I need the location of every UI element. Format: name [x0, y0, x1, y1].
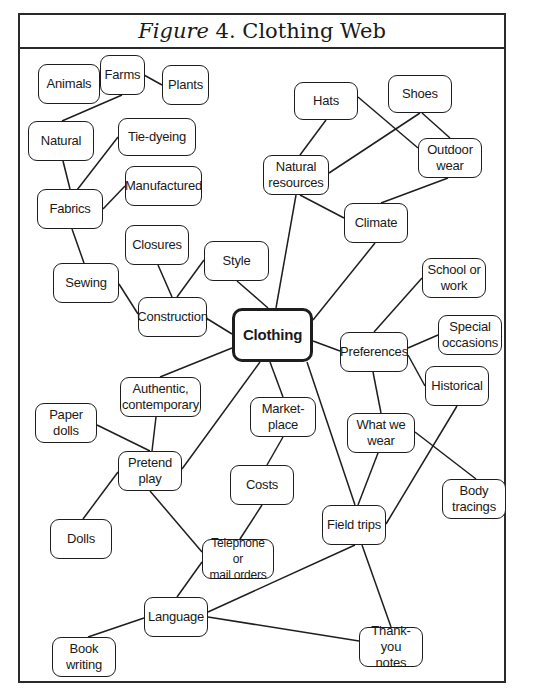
edge-language-bookwriting [88, 618, 144, 637]
edge-marketplace-costs [267, 437, 283, 465]
edge-pretendplay-dolls [83, 472, 118, 519]
node-pretend-play: Pretend play [118, 451, 182, 491]
node-special-occasions: Special occasions [438, 315, 502, 355]
edge-preferences-specialoccasions [408, 335, 438, 348]
edge-preferences-schoolorwork [374, 278, 422, 332]
node-paper-dolls: Paper dolls [35, 403, 97, 443]
node-clothing-center: Clothing [232, 308, 313, 362]
edge-fabrics-manufactured [103, 186, 125, 209]
edge-sewing-construction [119, 284, 138, 314]
node-authentic-contemporary: Authentic, contemporary [120, 377, 201, 417]
node-costs: Costs [230, 465, 294, 505]
edge-whatwewear-bodytracings [415, 432, 476, 479]
edge-authentic-pretendplay [152, 417, 156, 451]
edge-naturalresources-climate [300, 195, 344, 218]
node-natural: Natural [28, 121, 94, 161]
edge-preferences-historical [408, 355, 425, 386]
node-hats: Hats [294, 82, 358, 120]
node-tie-dyeing: Tie-dyeing [118, 118, 196, 156]
node-school-or-work: School or work [422, 258, 486, 298]
edge-style-clothing [237, 281, 268, 308]
edge-costs-telephone [240, 505, 262, 539]
edge-fabrics-sewing [72, 229, 84, 263]
edge-shoes-naturalresources [329, 113, 420, 173]
node-animals: Animals [38, 64, 100, 104]
edge-pretendplay-telephone [150, 491, 202, 552]
node-fabrics: Fabrics [37, 189, 103, 229]
edge-clothing-authentic [160, 348, 232, 377]
node-what-we-wear: What we wear [347, 413, 415, 453]
edge-climate-clothing [313, 243, 375, 320]
edge-preferences-whatwewear [373, 372, 381, 413]
node-farms: Farms [100, 55, 145, 95]
node-thank-you-notes: Thank-you notes [359, 627, 423, 667]
node-style: Style [204, 241, 269, 281]
node-closures: Closures [125, 225, 189, 265]
node-natural-resources: Natural resources [263, 155, 329, 195]
edge-language-thankyou [208, 617, 359, 641]
edge-telephone-language [177, 562, 202, 597]
edge-naturalresources-clothing [276, 195, 296, 308]
edge-clothing-preferences [313, 341, 340, 351]
node-book-writing: Book writing [52, 637, 116, 677]
edge-fieldtrips-thankyou [362, 545, 391, 627]
node-manufactured: Manufactured [125, 166, 202, 206]
node-climate: Climate [344, 203, 408, 243]
node-plants: Plants [162, 65, 209, 105]
node-dolls: Dolls [50, 519, 112, 559]
edge-shoes-outdoorwear [422, 113, 450, 138]
node-historical: Historical [425, 366, 489, 406]
node-body-tracings: Body tracings [442, 479, 506, 519]
node-field-trips: Field trips [322, 505, 386, 545]
edge-natural-fabrics [63, 161, 70, 189]
edge-construction-clothing [206, 318, 232, 334]
node-telephone-mail-orders: Telephone or mail orders [202, 539, 274, 579]
node-language: Language [144, 597, 208, 637]
edge-clothing-marketplace [270, 362, 283, 397]
edge-paperdolls-pretendplay [97, 425, 150, 451]
edge-outdoorwear-climate [381, 178, 448, 203]
edge-whatwewear-fieldtrips [358, 453, 378, 505]
node-shoes: Shoes [388, 75, 452, 113]
edge-hats-naturalresources [300, 120, 326, 155]
node-marketplace: Market- place [250, 397, 316, 437]
node-preferences: Preferences [340, 332, 408, 372]
edge-farms-plants [144, 75, 162, 85]
node-construction: Construction [138, 297, 207, 337]
node-outdoor-wear: Outdoor wear [418, 138, 482, 178]
edge-style-construction [177, 260, 204, 297]
edge-closures-construction [158, 265, 172, 297]
node-sewing: Sewing [53, 263, 119, 303]
